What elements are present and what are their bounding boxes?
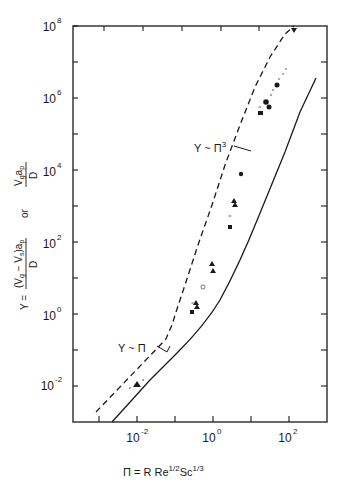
y-label-prefix: Y = bbox=[19, 295, 30, 310]
y-label-or: or bbox=[19, 208, 30, 218]
circle-marker bbox=[239, 172, 243, 176]
x-tick-exp: 2 bbox=[293, 427, 298, 436]
chart-svg: 10 8 10 6 10 4 10 2 10 0 10 -2 10 -2 10 … bbox=[0, 0, 344, 484]
y-tick-label: 10 bbox=[41, 379, 55, 393]
open-marker: = bbox=[228, 213, 232, 219]
y-tick-exp: 0 bbox=[57, 305, 62, 314]
triangle-marker bbox=[209, 261, 215, 266]
open-marker bbox=[285, 68, 287, 70]
y-ticks-left bbox=[73, 26, 78, 386]
dashed-asymptote-curve bbox=[96, 26, 294, 412]
y-tick-exp: 2 bbox=[57, 233, 62, 242]
y-tick-label: 10 bbox=[43, 92, 57, 106]
triangle-down-marker bbox=[291, 28, 297, 33]
x-tick-exp: -2 bbox=[141, 427, 149, 436]
x-tick-label: 10 bbox=[126, 431, 140, 445]
triangle-marker bbox=[210, 268, 216, 273]
y-tick-label: 10 bbox=[43, 165, 57, 179]
triangle-marker bbox=[231, 198, 237, 203]
circle-marker bbox=[275, 83, 280, 88]
x-tick-label: 10 bbox=[202, 431, 216, 445]
y-tick-exp: -2 bbox=[55, 375, 63, 384]
open-marker bbox=[270, 94, 272, 96]
y-label-fraction2-numerator: Vgap bbox=[13, 166, 26, 186]
y-tick-exp: 6 bbox=[57, 88, 62, 97]
x-tick-label: 10 bbox=[278, 431, 292, 445]
open-marker bbox=[282, 73, 284, 75]
y-label-denominator-2: D bbox=[28, 172, 39, 179]
data-points: = = = bbox=[129, 28, 297, 389]
y-tick-exp: 4 bbox=[57, 161, 62, 170]
open-marker bbox=[129, 387, 131, 389]
annotation-pi-cubed: Y ~ Π3 bbox=[194, 140, 227, 154]
y-tick-label: 10 bbox=[43, 20, 57, 34]
x-ticks-bottom bbox=[99, 416, 289, 422]
x-tick-exp: 0 bbox=[217, 427, 222, 436]
circle-marker bbox=[267, 105, 272, 110]
y-axis-label: Y = (Vg − Vs)ap D or Vgap D bbox=[13, 162, 39, 310]
open-marker bbox=[142, 379, 144, 381]
y-label-denominator: D bbox=[28, 261, 39, 268]
y-label-fraction1-numerator: (Vg − Vs)ap bbox=[13, 240, 26, 288]
y-tick-label: 10 bbox=[43, 309, 57, 323]
open-circle-marker bbox=[201, 285, 205, 289]
y-tick-label: 10 bbox=[43, 237, 57, 251]
annotation-pi-leader bbox=[157, 346, 170, 352]
y-tick-exp: 8 bbox=[57, 16, 62, 25]
y-ticks-right bbox=[321, 62, 327, 386]
annotation-pi: Y ~ Π bbox=[118, 342, 146, 354]
y-tick-labels: 10 8 10 6 10 4 10 2 10 0 10 -2 bbox=[41, 16, 63, 393]
x-axis-label: Π = R Re1/2Sc1/3 bbox=[123, 464, 204, 478]
solid-curve bbox=[112, 78, 316, 422]
circle-marker bbox=[263, 99, 269, 105]
square-marker bbox=[190, 310, 194, 314]
square-marker bbox=[258, 111, 263, 115]
triangle-marker bbox=[133, 381, 141, 387]
square-marker bbox=[228, 225, 232, 229]
open-marker: = bbox=[191, 300, 195, 306]
open-marker: = bbox=[258, 104, 262, 110]
x-ticks-top bbox=[104, 26, 259, 31]
x-tick-labels: 10 -2 10 0 10 2 bbox=[126, 427, 298, 445]
open-marker bbox=[278, 78, 280, 80]
open-marker bbox=[272, 89, 274, 91]
plot-frame bbox=[73, 26, 327, 422]
annotation-pi-cubed-leader bbox=[234, 146, 251, 151]
